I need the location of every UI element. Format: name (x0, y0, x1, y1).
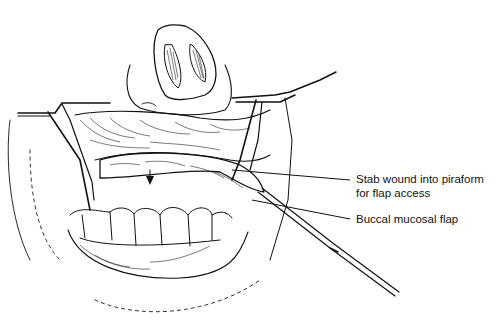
buccal-mucosal-flap (100, 153, 264, 192)
label-stab-wound: Stab wound into piraform for flap access (356, 172, 484, 200)
surgical-drawing (0, 0, 498, 331)
nose (127, 25, 231, 115)
label-buccal-flap-line1: Buccal mucosal flap (356, 212, 458, 226)
label-stab-wound-line2: for flap access (356, 186, 484, 200)
retractor-left (18, 103, 110, 210)
leader-line-flap (252, 200, 350, 219)
upper-teeth (70, 208, 232, 247)
leader-line-stab (232, 170, 350, 180)
illustration: Stab wound into piraform for flap access… (0, 0, 498, 331)
label-stab-wound-line1: Stab wound into piraform (356, 172, 484, 186)
label-buccal-flap: Buccal mucosal flap (356, 212, 458, 226)
surgical-instrument (258, 188, 399, 296)
